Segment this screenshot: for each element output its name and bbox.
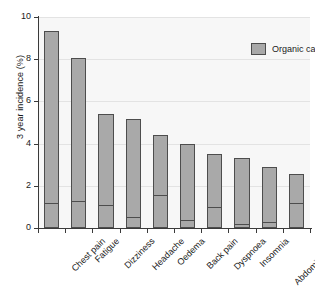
y-axis-tick: 0 bbox=[0, 228, 38, 229]
bar-dizziness bbox=[98, 114, 113, 228]
bar-chest-pain bbox=[44, 31, 59, 228]
y-axis-tick: 2 bbox=[0, 186, 38, 187]
y-axis-tick-label: 8 bbox=[26, 53, 31, 64]
x-axis-tick bbox=[92, 229, 93, 233]
y-axis-tick: 10 bbox=[0, 17, 38, 18]
x-axis-tick bbox=[65, 229, 66, 233]
x-axis-tick bbox=[283, 229, 284, 233]
bar-segment-organic-cause bbox=[180, 220, 195, 228]
legend-label-organic-cause: Organic cause bbox=[272, 44, 315, 54]
chart-legend: Organic cause bbox=[251, 43, 315, 55]
y-axis-tick-mark bbox=[34, 17, 38, 18]
bar-headache bbox=[126, 119, 141, 228]
y-axis-tick: 8 bbox=[0, 59, 38, 60]
x-axis-tick bbox=[310, 229, 311, 233]
bar-oedema bbox=[153, 135, 168, 228]
y-axis-tick-label: 2 bbox=[26, 180, 31, 191]
y-axis-tick-mark bbox=[34, 59, 38, 60]
y-axis-tick-label: 0 bbox=[26, 222, 31, 233]
bar-segment-organic-cause bbox=[126, 217, 141, 228]
x-axis-tick bbox=[38, 229, 39, 233]
x-axis-tick bbox=[147, 229, 148, 233]
legend-swatch-organic-cause bbox=[251, 43, 266, 55]
y-axis-tick-mark bbox=[34, 144, 38, 145]
bar-segment-organic-cause bbox=[153, 195, 168, 228]
x-axis-tick bbox=[228, 229, 229, 233]
x-axis-tick bbox=[201, 229, 202, 233]
bar-dyspnoea bbox=[207, 154, 222, 228]
bar-numbness bbox=[289, 174, 304, 228]
bar-insomnia bbox=[234, 158, 249, 228]
bar-segment-organic-cause bbox=[207, 207, 222, 228]
y-axis-tick-label: 4 bbox=[26, 138, 31, 149]
x-axis-tick bbox=[256, 229, 257, 233]
y-axis-tick: 4 bbox=[0, 144, 38, 145]
y-axis-spine bbox=[38, 16, 39, 229]
y-axis-tick-label: 10 bbox=[21, 11, 31, 22]
y-axis-tick-mark bbox=[34, 186, 38, 187]
chart-figure: 3 year incidence (%) Organic cause 02468… bbox=[0, 0, 315, 291]
bar-segment-organic-cause bbox=[44, 203, 59, 228]
bar-back-pain bbox=[180, 144, 195, 228]
gridline bbox=[38, 17, 310, 18]
y-axis-title: 3 year incidence (%) bbox=[15, 17, 25, 177]
plot-area: Organic cause bbox=[38, 17, 310, 228]
x-axis-tick bbox=[120, 229, 121, 233]
bar-segment-organic-cause bbox=[289, 203, 304, 228]
bar-segment-organic-cause bbox=[98, 205, 113, 228]
bar-abdominal-pain bbox=[262, 167, 277, 228]
x-axis-label-numbness: Numbness bbox=[314, 236, 315, 273]
x-axis-label-abdominal-pain: Abdominal pain bbox=[292, 236, 315, 287]
bar-segment-organic-cause bbox=[71, 201, 86, 228]
y-axis-tick-mark bbox=[34, 101, 38, 102]
y-axis-tick-label: 6 bbox=[26, 95, 31, 106]
y-axis-tick: 6 bbox=[0, 101, 38, 102]
x-axis-tick bbox=[174, 229, 175, 233]
bar-fatigue bbox=[71, 58, 86, 228]
